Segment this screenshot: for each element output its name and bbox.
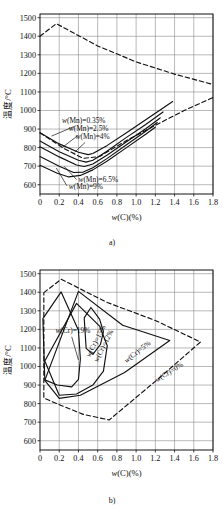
series-annotation-label: w(Cr)=19% (55, 326, 90, 335)
x-axis-label: w(C)(%) (111, 468, 141, 478)
chart-b-canvas: 00.20.40.60.81.01.21.41.61.8600700800900… (0, 256, 224, 496)
x-tick-label: 1.2 (150, 198, 160, 207)
x-tick-label: 0.4 (73, 454, 83, 463)
y-tick-label: 800 (24, 144, 36, 153)
x-tick-label: 0.4 (73, 198, 83, 207)
grid-lines (40, 14, 213, 194)
y-tick-label: 1200 (20, 325, 36, 334)
chart-a-canvas: 00.20.40.60.81.01.21.41.61.8600700800900… (0, 0, 224, 238)
x-tick-label: 0.8 (112, 198, 122, 207)
y-tick-label: 1400 (20, 32, 36, 41)
series-label-leader (56, 168, 67, 186)
x-tick-label: 0.2 (54, 198, 64, 207)
x-tick-label: 1.8 (208, 454, 218, 463)
x-tick-label: 0 (38, 198, 42, 207)
x-tick-label: 1.4 (169, 454, 179, 463)
series-annotation-label: w(Mn)=0.35% (62, 116, 105, 125)
x-tick-label: 1.8 (208, 198, 218, 207)
y-tick-label: 1000 (20, 362, 36, 371)
series-annotation-label: w(Mn)=4% (76, 132, 110, 141)
y-tick-label: 600 (24, 181, 36, 190)
x-tick-label: 1.2 (150, 454, 160, 463)
y-tick-label: 1400 (20, 288, 36, 297)
series-label-leader (72, 337, 79, 360)
x-tick-label: 1.4 (169, 198, 179, 207)
y-tick-label: 1500 (20, 270, 36, 279)
plot-frame (40, 14, 213, 194)
x-tick-label: 1.0 (131, 454, 141, 463)
y-tick-label: 700 (24, 418, 36, 427)
series-layer (40, 24, 213, 186)
y-axis-label: 温度/°C (2, 345, 13, 375)
series-curve (40, 98, 213, 159)
series-layer (43, 279, 201, 420)
y-tick-label: 600 (24, 437, 36, 446)
y-tick-label: 1300 (20, 51, 36, 60)
series-annotation-label: w(Cr)=0% (154, 360, 185, 384)
caption-a: a) (0, 238, 224, 247)
x-tick-label: 1.6 (189, 198, 199, 207)
y-axis-label: 温度/°C (2, 89, 13, 119)
series-curve (40, 24, 213, 85)
x-tick-label: 0.6 (93, 198, 103, 207)
chart-panel-b: 00.20.40.60.81.01.21.41.61.8600700800900… (0, 256, 224, 516)
y-tick-label: 700 (24, 162, 36, 171)
x-tick-label: 0.2 (54, 454, 64, 463)
x-tick-label: 1.0 (131, 198, 141, 207)
y-tick-label: 900 (24, 125, 36, 134)
x-tick-label: 1.6 (189, 454, 199, 463)
y-tick-label: 800 (24, 400, 36, 409)
y-tick-label: 1500 (20, 14, 36, 23)
series-annotation-label: w(Mn)=9% (69, 182, 103, 191)
y-tick-label: 900 (24, 381, 36, 390)
x-tick-label: 0 (38, 454, 42, 463)
x-axis-label: w(C)(%) (111, 212, 141, 222)
caption-b: b) (0, 496, 224, 505)
y-tick-label: 1100 (20, 344, 36, 353)
y-tick-label: 1000 (20, 106, 36, 115)
series-curve (44, 279, 201, 420)
x-tick-label: 0.6 (93, 454, 103, 463)
x-tick-label: 0.8 (112, 454, 122, 463)
y-tick-label: 1200 (20, 69, 36, 78)
chart-panel-a: 00.20.40.60.81.01.21.41.61.8600700800900… (0, 0, 224, 256)
y-tick-label: 1300 (20, 307, 36, 316)
y-tick-label: 1100 (20, 88, 36, 97)
series-annotation-label: w(Cr)=5% (122, 338, 152, 364)
figure-page: 00.20.40.60.81.01.21.41.61.8600700800900… (0, 0, 224, 516)
